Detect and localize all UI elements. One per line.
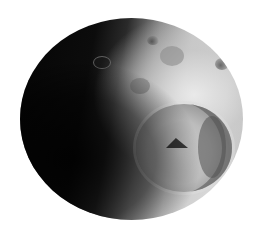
terminator-shadow <box>20 18 243 220</box>
moon-body <box>20 18 243 220</box>
